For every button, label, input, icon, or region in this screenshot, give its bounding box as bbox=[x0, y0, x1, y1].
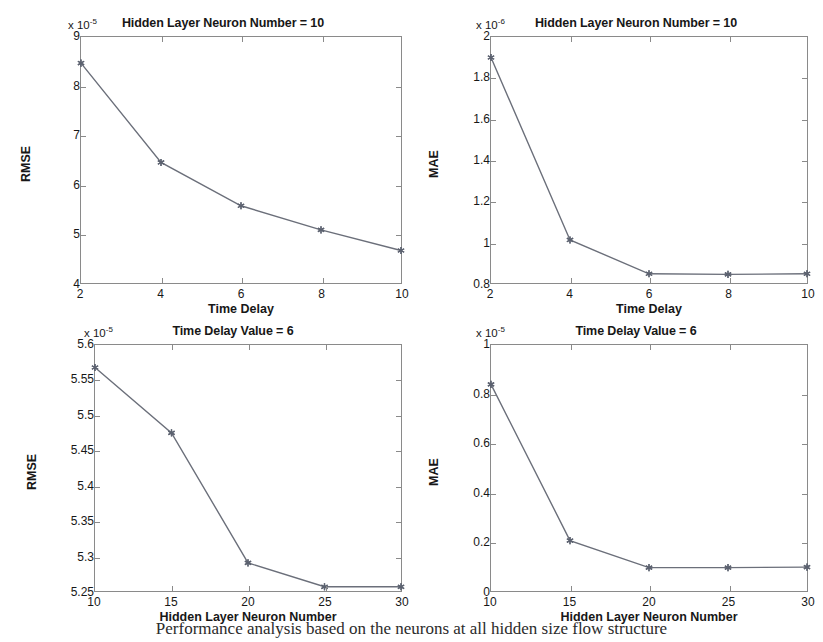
y-tick-label: 5.35 bbox=[12, 514, 99, 528]
x-tick-mark bbox=[323, 37, 324, 42]
y-tick-label: 6 bbox=[12, 178, 85, 192]
y-tick-mark bbox=[396, 186, 401, 187]
y-tick-mark bbox=[802, 494, 807, 495]
y-tick-label: 5.3 bbox=[12, 550, 99, 564]
panel-title: Hidden Layer Neuron Number = 10 bbox=[466, 16, 806, 30]
panel-rmse-vs-time-delay: Hidden Layer Neuron Number = 10 x 10-5 R… bbox=[12, 14, 412, 314]
y-tick-mark bbox=[396, 416, 401, 417]
y-tick-label: 1 bbox=[418, 337, 495, 351]
x-tick-mark bbox=[571, 37, 572, 42]
data-line bbox=[95, 367, 401, 586]
y-tick-label: 5.45 bbox=[12, 443, 99, 457]
x-tick-label: 10 bbox=[801, 287, 814, 301]
x-tick-mark bbox=[571, 586, 572, 591]
figure-four-panel-line-charts: Hidden Layer Neuron Number = 10 x 10-5 R… bbox=[0, 0, 823, 642]
x-tick-label: 25 bbox=[318, 595, 331, 609]
y-tick-mark bbox=[802, 120, 807, 121]
data-point-marker bbox=[567, 236, 573, 243]
y-tick-mark bbox=[802, 395, 807, 396]
x-tick-mark bbox=[571, 278, 572, 283]
x-tick-mark bbox=[172, 586, 173, 591]
data-line bbox=[491, 384, 807, 567]
x-tick-mark bbox=[172, 345, 173, 350]
x-axis-label: Time Delay bbox=[80, 302, 402, 316]
panel-title: Time Delay Value = 6 bbox=[466, 324, 806, 338]
x-tick-label: 4 bbox=[157, 287, 164, 301]
x-tick-label: 10 bbox=[395, 287, 408, 301]
x-tick-mark bbox=[730, 37, 731, 42]
x-tick-mark bbox=[571, 345, 572, 350]
x-tick-mark bbox=[650, 37, 651, 42]
x-tick-label: 10 bbox=[483, 595, 496, 609]
data-point-marker bbox=[567, 537, 573, 544]
x-tick-label: 6 bbox=[238, 287, 245, 301]
panel-title: Time Delay Value = 6 bbox=[72, 324, 394, 338]
x-tick-mark bbox=[249, 345, 250, 350]
y-tick-label: 0.2 bbox=[418, 535, 495, 549]
y-tick-mark bbox=[802, 244, 807, 245]
y-tick-label: 5.5 bbox=[12, 408, 99, 422]
x-tick-mark bbox=[730, 278, 731, 283]
panel-title: Hidden Layer Neuron Number = 10 bbox=[52, 16, 394, 30]
x-tick-mark bbox=[650, 586, 651, 591]
y-tick-label: 4 bbox=[12, 277, 85, 291]
panel-rmse-vs-neuron-number: Time Delay Value = 6 x 10-5 RMSE 5.255.3… bbox=[12, 322, 412, 622]
y-tick-label: 5.55 bbox=[12, 372, 99, 386]
y-tick-mark bbox=[802, 161, 807, 162]
plot-area bbox=[490, 344, 808, 592]
x-tick-mark bbox=[242, 278, 243, 283]
x-tick-label: 15 bbox=[563, 595, 576, 609]
y-tick-label: 0.4 bbox=[418, 486, 495, 500]
y-tick-label: 1.4 bbox=[418, 153, 495, 167]
y-tick-mark bbox=[396, 451, 401, 452]
y-tick-mark bbox=[396, 522, 401, 523]
x-tick-mark bbox=[326, 345, 327, 350]
x-tick-mark bbox=[249, 586, 250, 591]
plot-area bbox=[80, 36, 402, 284]
x-tick-label: 8 bbox=[318, 287, 325, 301]
y-tick-label: 5 bbox=[12, 227, 85, 241]
x-tick-mark bbox=[730, 345, 731, 350]
x-tick-mark bbox=[730, 586, 731, 591]
series-line-mae bbox=[491, 345, 807, 591]
y-tick-label: 2 bbox=[418, 29, 495, 43]
x-tick-label: 20 bbox=[241, 595, 254, 609]
x-tick-mark bbox=[323, 278, 324, 283]
panel-mae-vs-time-delay: Hidden Layer Neuron Number = 10 x 10-6 M… bbox=[418, 14, 818, 314]
y-tick-label: 0.8 bbox=[418, 277, 495, 291]
y-tick-mark bbox=[396, 558, 401, 559]
x-tick-mark bbox=[326, 586, 327, 591]
y-tick-mark bbox=[802, 78, 807, 79]
x-tick-label: 8 bbox=[725, 287, 732, 301]
y-tick-mark bbox=[396, 235, 401, 236]
x-axis-label: Time Delay bbox=[490, 302, 808, 316]
y-tick-label: 5.25 bbox=[12, 585, 99, 599]
x-tick-mark bbox=[650, 278, 651, 283]
y-tick-label: 1.2 bbox=[418, 194, 495, 208]
y-tick-mark bbox=[802, 444, 807, 445]
figure-caption: Performance analysis based on the neuron… bbox=[0, 622, 823, 642]
y-tick-label: 9 bbox=[12, 29, 85, 43]
y-axis-label: RMSE bbox=[19, 146, 33, 182]
x-tick-label: 6 bbox=[646, 287, 653, 301]
y-tick-mark bbox=[396, 380, 401, 381]
y-tick-label: 0.8 bbox=[418, 387, 495, 401]
x-tick-mark bbox=[242, 37, 243, 42]
y-tick-mark bbox=[802, 543, 807, 544]
panel-mae-vs-neuron-number: Time Delay Value = 6 x 10-5 MAE 00.20.40… bbox=[418, 322, 818, 622]
x-tick-label: 2 bbox=[77, 287, 84, 301]
x-tick-mark bbox=[162, 278, 163, 283]
x-tick-label: 15 bbox=[164, 595, 177, 609]
x-tick-label: 30 bbox=[801, 595, 814, 609]
series-line-rmse bbox=[81, 37, 401, 283]
series-line-mae bbox=[491, 37, 807, 283]
x-tick-label: 4 bbox=[566, 287, 573, 301]
y-tick-label: 1.8 bbox=[418, 70, 495, 84]
x-tick-mark bbox=[162, 37, 163, 42]
y-tick-label: 8 bbox=[12, 79, 85, 93]
data-line bbox=[491, 58, 807, 275]
data-line bbox=[81, 63, 401, 250]
x-tick-label: 30 bbox=[395, 595, 408, 609]
y-axis-label: MAE bbox=[427, 458, 441, 486]
y-tick-label: 1 bbox=[418, 236, 495, 250]
